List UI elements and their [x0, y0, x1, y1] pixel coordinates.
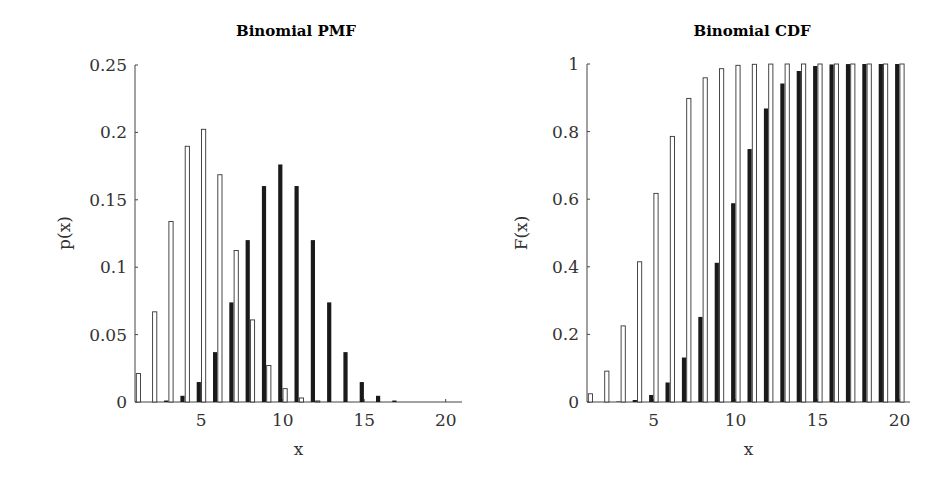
bar-black	[715, 263, 719, 402]
bar-white	[867, 64, 871, 402]
bar-white	[720, 69, 724, 402]
bar-white	[202, 129, 206, 402]
bar-black	[649, 395, 653, 402]
y-tick-label: 0.8	[552, 122, 579, 142]
bar-black	[862, 64, 866, 402]
bar-white	[769, 64, 773, 402]
bar-black	[780, 84, 784, 402]
bar-black	[246, 240, 250, 402]
bar-white	[818, 64, 822, 402]
figure: Binomial PMF00.050.10.150.20.255101520xp…	[0, 0, 952, 478]
cdf-chart: Binomial CDF00.20.40.60.815101520xF(x)	[511, 22, 910, 459]
bar-black	[197, 382, 201, 402]
bar-white	[218, 175, 222, 402]
bar-white	[802, 64, 806, 402]
bar-white	[267, 365, 271, 402]
y-tick-label: 0.05	[89, 325, 127, 345]
bar-black	[633, 400, 637, 402]
bar-white	[153, 312, 157, 402]
x-axis-label: x	[744, 439, 754, 459]
bar-black	[327, 302, 331, 402]
bar-white	[299, 398, 303, 402]
bar-white	[605, 371, 609, 402]
bar-black	[748, 149, 752, 402]
y-tick-label: 0.2	[100, 122, 127, 142]
y-tick-label: 0	[116, 392, 127, 412]
y-axis-label: F(x)	[511, 216, 531, 251]
bar-black	[213, 352, 217, 402]
x-tick-label: 15	[807, 410, 829, 430]
bar-white	[136, 374, 140, 402]
x-tick-label: 20	[889, 410, 911, 430]
chart-title: Binomial PMF	[236, 22, 356, 40]
y-axis-label: p(x)	[54, 216, 74, 250]
bar-white	[900, 64, 904, 402]
bar-black	[278, 164, 282, 402]
bar-black	[666, 382, 670, 402]
y-tick-label: 0.25	[89, 55, 127, 75]
x-tick-label: 10	[725, 410, 747, 430]
x-tick-label: 5	[648, 410, 659, 430]
bar-black	[376, 396, 380, 402]
bar-black	[731, 203, 735, 402]
bar-white	[884, 64, 888, 402]
y-tick-label: 0.1	[100, 257, 127, 277]
bar-black	[698, 317, 702, 402]
bar-white	[834, 64, 838, 402]
bar-white	[283, 389, 287, 402]
x-tick-label: 15	[353, 410, 375, 430]
bar-white	[736, 65, 740, 402]
bar-black	[879, 64, 883, 402]
bar-black	[311, 240, 315, 402]
x-tick-label: 10	[272, 410, 294, 430]
bar-white	[234, 250, 238, 402]
bar-black	[164, 401, 168, 402]
y-tick-label: 0	[568, 392, 579, 412]
bar-black	[895, 64, 899, 402]
bar-black	[295, 186, 299, 402]
bar-white	[703, 78, 707, 402]
bar-white	[670, 136, 674, 402]
bar-white	[687, 98, 691, 402]
bar-white	[621, 326, 625, 402]
bar-white	[638, 262, 642, 402]
bar-white	[588, 394, 592, 402]
pmf-chart: Binomial PMF00.050.10.150.20.255101520xp…	[54, 22, 462, 459]
bar-white	[785, 64, 789, 402]
bar-black	[343, 352, 347, 402]
bar-black	[229, 302, 233, 402]
bar-white	[654, 193, 658, 402]
bar-white	[752, 64, 756, 402]
chart-title: Binomial CDF	[693, 22, 810, 40]
bar-white	[250, 320, 254, 402]
y-tick-label: 0.15	[89, 190, 127, 210]
bar-white	[316, 401, 320, 402]
x-axis-label: x	[294, 439, 304, 459]
y-tick-label: 1	[568, 54, 579, 74]
bar-black	[830, 64, 834, 402]
bar-white	[169, 222, 173, 402]
bar-black	[846, 64, 850, 402]
y-tick-label: 0.4	[552, 257, 579, 277]
x-tick-label: 20	[435, 410, 457, 430]
bar-black	[360, 382, 364, 402]
bar-black	[180, 396, 184, 402]
y-tick-label: 0.2	[552, 324, 579, 344]
bar-black	[262, 186, 266, 402]
bar-black	[682, 358, 686, 402]
bar-black	[764, 108, 768, 402]
bar-black	[392, 401, 396, 402]
y-tick-label: 0.6	[552, 189, 579, 209]
x-tick-label: 5	[196, 410, 207, 430]
bar-white	[851, 64, 855, 402]
bar-black	[813, 66, 817, 402]
bar-white	[185, 146, 189, 402]
bar-black	[797, 71, 801, 402]
